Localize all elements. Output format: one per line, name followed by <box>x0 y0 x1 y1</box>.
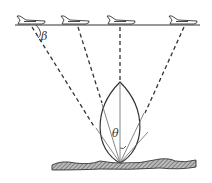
aircraft-icon <box>61 16 89 24</box>
beta-angle-arc <box>36 25 41 38</box>
aircraft-icon <box>107 16 135 24</box>
theta-label: θ <box>112 127 119 140</box>
diagram: β θ <box>0 0 212 183</box>
beta-label: β <box>41 30 47 43</box>
diagram-canvas <box>0 0 212 183</box>
theta-angle-arc <box>120 146 126 149</box>
sight-lines <box>32 27 184 128</box>
aircraft-icon <box>17 16 45 24</box>
aircraft-icon <box>169 16 197 24</box>
